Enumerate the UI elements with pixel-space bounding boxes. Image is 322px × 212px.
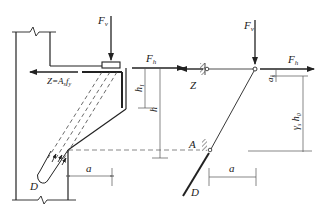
right-strut-label: D bbox=[190, 186, 199, 198]
h1-label: h1 bbox=[133, 84, 145, 92]
left-strut-label: D bbox=[29, 180, 38, 192]
left-fv-label: Fv bbox=[97, 14, 109, 28]
mid-fh-label: Fh bbox=[145, 52, 157, 66]
tie-label: Z=Asfy bbox=[47, 76, 71, 87]
as-label: as bbox=[265, 75, 276, 83]
right-z-label: Z bbox=[190, 79, 197, 91]
corbel-diagram: Fv Z=Asfy D a Fh h1 h bbox=[0, 0, 322, 212]
right-fh-label: Fh bbox=[287, 53, 299, 67]
h-label: h bbox=[148, 107, 159, 112]
truss-model bbox=[180, 20, 314, 196]
right-a-label: a bbox=[229, 162, 235, 174]
left-a-label: a bbox=[86, 162, 92, 174]
gamma-h0-label: γs h0 bbox=[290, 113, 302, 130]
right-fv-label: Fv bbox=[243, 19, 255, 33]
node-a-label: A bbox=[188, 138, 196, 150]
